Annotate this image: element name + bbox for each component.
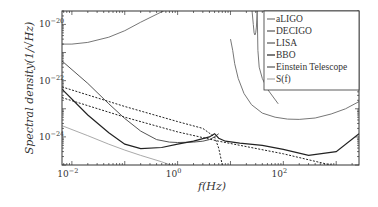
y-tick-label: 10−20 bbox=[39, 17, 64, 29]
series-line-einstein-telescope-low-band- bbox=[252, 5, 258, 35]
series-line-lisa bbox=[62, 0, 203, 44]
legend-item-label: aLIGO bbox=[276, 14, 303, 24]
x-tick-label: 100 bbox=[166, 167, 182, 179]
y-tick-labels: 10−2010−2210−24 bbox=[39, 17, 64, 141]
legend-item-label: BBO bbox=[276, 50, 296, 60]
legend-item-label: Einstein Telescope bbox=[276, 62, 347, 72]
series-line-s-f- bbox=[62, 126, 199, 193]
series-line-dotted-2 bbox=[62, 87, 225, 193]
series-line-bbo bbox=[62, 89, 359, 155]
x-tick-label: 102 bbox=[272, 167, 288, 179]
legend-item-label: S(f) bbox=[276, 74, 291, 85]
series-line-decigo bbox=[62, 61, 219, 143]
legend: aLIGODECIGOLISABBOEinstein TelescopeS(f) bbox=[264, 11, 359, 90]
y-tick-label: 10−24 bbox=[39, 130, 64, 142]
legend-item-label: LISA bbox=[276, 38, 297, 48]
y-tick-label: 10−22 bbox=[39, 74, 64, 86]
x-tick-labels: 10−2100102 bbox=[57, 167, 287, 179]
x-axis-label: f(Hz) bbox=[197, 180, 226, 193]
legend-item-label: DECIGO bbox=[276, 26, 312, 36]
spectral-density-chart: 10−2100102 10−2010−2210−24 f(Hz) Spectra… bbox=[0, 0, 378, 207]
y-axis-label: Spectral density(1/√Hz) bbox=[23, 22, 36, 155]
x-tick-label: 10−2 bbox=[57, 167, 78, 179]
